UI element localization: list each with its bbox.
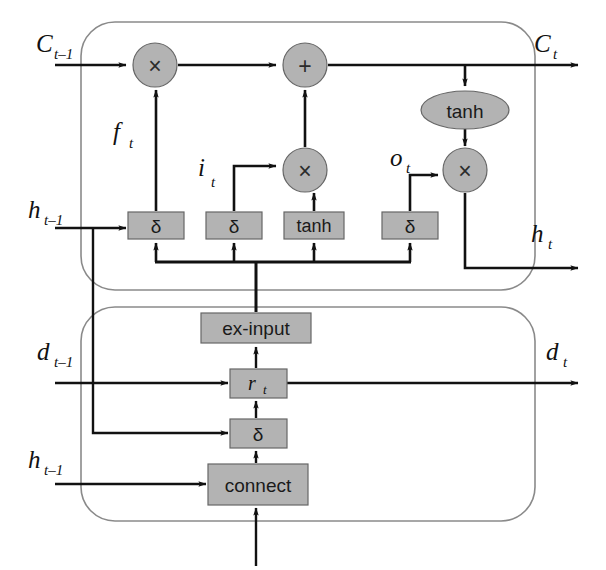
block-r-gate-subscript: t: [263, 382, 267, 397]
block-ex-input[interactable]: ex-input: [201, 313, 311, 343]
label-c-out-sub: t: [553, 46, 558, 62]
label-c-out: C t: [534, 30, 558, 62]
label-d-prev: d t–1: [37, 338, 73, 370]
label-d-out-base: d: [546, 338, 559, 365]
block-sigma[interactable]: δ: [230, 419, 287, 448]
gate-output-label: δ: [405, 216, 416, 237]
label-f-t: f t: [113, 118, 134, 151]
tanh-ellipse-node[interactable]: tanh: [421, 91, 509, 129]
label-h-prev-2-base: h: [28, 446, 41, 473]
label-i-t-base: i: [198, 154, 205, 181]
gate-forget[interactable]: δ: [128, 212, 184, 239]
label-o-t-sub: t: [406, 160, 411, 176]
wire-inputgate-to-mul: [234, 166, 276, 211]
gate-candidate[interactable]: tanh: [284, 212, 344, 239]
label-i-t-sub: t: [211, 174, 216, 190]
gate-input[interactable]: δ: [206, 212, 262, 239]
gate-input-label: δ: [229, 216, 240, 237]
op-mul-input-label: ×: [298, 158, 311, 184]
label-h-out-base: h: [531, 220, 544, 247]
label-f-t-base: f: [113, 118, 123, 145]
block-connect-label: connect: [225, 475, 292, 496]
wire-mulout-to-hout: [465, 193, 578, 268]
label-d-prev-base: d: [37, 338, 50, 365]
label-d-out: d t: [546, 338, 568, 370]
label-h-prev-2: h t–1: [28, 446, 63, 478]
gate-output[interactable]: δ: [382, 212, 438, 239]
bottom-cell-wires: [55, 229, 578, 566]
label-d-prev-sub: t–1: [54, 354, 73, 370]
block-connect[interactable]: connect: [208, 464, 308, 505]
tanh-ellipse-label: tanh: [447, 101, 484, 122]
gate-candidate-label: tanh: [296, 216, 331, 236]
lstm-cell-diagram: × + × × tanh δ: [0, 0, 606, 570]
block-r-gate[interactable]: r t: [230, 369, 287, 398]
label-c-prev-base: C: [36, 30, 53, 57]
top-cell-nodes: × + × × tanh δ: [128, 43, 509, 239]
op-add-cell-label: +: [298, 53, 311, 79]
block-ex-input-label: ex-input: [222, 318, 290, 339]
label-h-out-sub: t: [548, 236, 553, 252]
op-mul-forget-label: ×: [148, 53, 161, 79]
label-d-out-sub: t: [563, 354, 568, 370]
label-o-t-base: o: [390, 144, 403, 171]
gate-forget-label: δ: [151, 216, 162, 237]
label-c-prev: C t–1: [36, 30, 73, 62]
label-h-prev-2-sub: t–1: [44, 462, 63, 478]
op-mul-output[interactable]: ×: [443, 148, 487, 192]
label-c-prev-sub: t–1: [54, 46, 73, 62]
wire-outputgate-to-mul: [410, 175, 438, 211]
op-mul-forget[interactable]: ×: [133, 43, 177, 87]
op-add-cell[interactable]: +: [283, 43, 327, 87]
label-h-prev-base: h: [28, 196, 41, 223]
block-sigma-label: δ: [253, 424, 264, 445]
label-o-t: o t: [390, 144, 411, 176]
op-mul-output-label: ×: [458, 158, 471, 184]
label-h-prev: h t–1: [28, 196, 63, 228]
label-i-t: i t: [198, 154, 216, 190]
label-c-out-base: C: [534, 30, 551, 57]
label-h-prev-sub: t–1: [44, 212, 63, 228]
label-f-t-sub: t: [129, 135, 134, 151]
block-r-gate-label: r: [248, 372, 256, 394]
op-mul-input[interactable]: ×: [283, 148, 327, 192]
diagram-canvas: × + × × tanh δ: [0, 0, 606, 570]
